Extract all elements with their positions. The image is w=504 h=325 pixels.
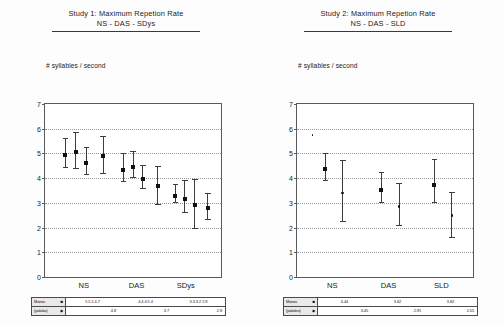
data-series	[297, 104, 473, 277]
error-bar-cap-lower	[379, 202, 385, 203]
marker-square-point	[63, 153, 67, 157]
y-tick-mark	[42, 277, 45, 278]
y-tick-label: 4	[289, 175, 293, 182]
error-bar-cap-upper	[340, 160, 346, 161]
error-bar-cap-upper	[396, 183, 402, 184]
y-tick-label: 5	[37, 150, 41, 157]
marker-square-point	[84, 161, 88, 165]
title-underline	[52, 31, 200, 32]
legend-row-name: (palaba)◆	[32, 307, 66, 315]
chart-title-line2: NS - DAS - SLD	[252, 19, 504, 29]
chart-title-line1: Study 1: Maximum Repetion Rate	[0, 9, 252, 19]
chart-title-line2: NS - DAS - SDys	[0, 19, 252, 29]
y-tick-label: 3	[289, 199, 293, 206]
legend-row-name: Monos■	[32, 298, 66, 306]
legend-cells: 5 5.1 4.74.4 4.5 43.3 3.2 2.9	[66, 298, 225, 306]
error-bar-cap-upper	[379, 172, 385, 173]
y-tick-label: 1	[37, 249, 41, 256]
figure-page: Study 1: Maximum Repetion Rate NS - DAS …	[0, 0, 504, 325]
error-bar-cap-lower	[130, 177, 136, 178]
chart-title-study2: Study 2: Maximum Repetion Rate NS - DAS …	[252, 9, 504, 32]
error-bar-cap-lower	[121, 181, 127, 182]
marker-square-point	[206, 206, 210, 210]
legend-row-label: (palaba)	[34, 309, 47, 313]
legend-cell-value: 4.4 4.5 4	[119, 300, 172, 304]
error-bar-cap-upper	[182, 180, 188, 181]
y-tick-label: 3	[37, 199, 41, 206]
legend-table-study2: Monos■4.443.623.82(palabra)◆3.452.912.55	[283, 297, 478, 316]
error-bar-cap-lower	[84, 174, 90, 175]
legend-cell-value: 2.8	[172, 309, 225, 313]
error-bar-cap-lower	[432, 202, 438, 203]
data-series	[45, 104, 221, 277]
error-bar-cap-lower	[192, 228, 198, 229]
marker-square-point	[193, 203, 197, 207]
legend-cell-value: 2.91	[371, 309, 424, 313]
legend-table-study1: Monos■5 5.1 4.74.4 4.5 43.3 3.2 2.9(pala…	[31, 297, 226, 316]
legend-row-label: (palabra)	[286, 309, 301, 313]
error-bar-cap-lower	[449, 237, 455, 238]
marker-square-point	[74, 150, 78, 154]
x-tick-label-das: DAS	[381, 282, 397, 290]
error-bar-line	[175, 184, 176, 203]
legend-row-label: Monos	[286, 300, 297, 304]
legend-cell-value: 3.62	[371, 300, 424, 304]
error-bar-cap-upper	[432, 159, 438, 160]
y-tick-label: 5	[289, 150, 293, 157]
legend-row: (palabra)◆3.452.912.55	[284, 306, 477, 315]
square-symbol-icon: ■	[60, 300, 63, 304]
y-tick-label: 7	[289, 101, 293, 108]
error-bar-cap-upper	[73, 132, 79, 133]
error-bar-cap-lower	[323, 180, 329, 181]
diamond-symbol-icon: ◆	[312, 309, 315, 313]
error-bar-line	[399, 183, 400, 225]
plot-area-study2: 01234567NSDASSLD	[296, 103, 474, 278]
legend-cell-value: 3.82	[424, 300, 477, 304]
marker-square-point	[101, 154, 105, 158]
error-bar-cap-lower	[205, 219, 211, 220]
marker-square-point	[121, 168, 125, 172]
error-bar-cap-upper	[205, 193, 211, 194]
marker-diamond-point	[341, 192, 344, 195]
legend-cell-value: 4.44	[318, 300, 371, 304]
marker-square-point	[432, 183, 436, 187]
legend-cell-value: 5 5.1 4.7	[66, 300, 119, 304]
legend-row: Monos■4.443.623.82	[284, 298, 477, 306]
x-tick-label-ns: NS	[78, 282, 89, 290]
error-bar-cap-upper	[63, 138, 69, 139]
y-tick-label: 4	[37, 175, 41, 182]
legend-cell-value: 4.8	[66, 309, 119, 313]
marker-square-point	[183, 197, 187, 201]
x-tick-label-sld: SLD	[434, 282, 449, 290]
error-bar-cap-lower	[155, 204, 161, 205]
diamond-symbol-icon: ◆	[60, 309, 63, 313]
error-bar-cap-lower	[182, 212, 188, 213]
error-bar-cap-lower	[396, 225, 402, 226]
y-tick-label: 2	[37, 224, 41, 231]
y-tick-label: 7	[37, 101, 41, 108]
legend-row: (palaba)◆4.83.72.8	[32, 306, 225, 315]
chart-title-line1: Study 2: Maximum Repetion Rate	[252, 9, 504, 19]
y-tick-label: 0	[289, 274, 293, 281]
marker-square-point	[379, 188, 383, 192]
marker-square-point	[141, 177, 145, 181]
legend-row: Monos■5 5.1 4.74.4 4.5 43.3 3.2 2.9	[32, 298, 225, 306]
legend-cell-value: 3.3 3.2 2.9	[172, 300, 225, 304]
error-bar-cap-upper	[130, 151, 136, 152]
legend-cell-value: 2.55	[424, 309, 477, 313]
error-bar-cap-lower	[73, 168, 79, 169]
marker-square-point	[131, 165, 135, 169]
error-bar-cap-upper	[173, 184, 179, 185]
legend-cells: 4.83.72.8	[66, 307, 225, 315]
marker-square-point	[173, 194, 177, 198]
stray-dot-icon	[312, 134, 314, 136]
x-tick-label-sdys: SDys	[177, 282, 195, 290]
y-tick-label: 6	[289, 125, 293, 132]
y-tick-label: 0	[37, 274, 41, 281]
x-tick-label-das: DAS	[129, 282, 145, 290]
title-underline	[304, 31, 452, 32]
marker-square-point	[323, 167, 327, 171]
error-bar-cap-lower	[340, 221, 346, 222]
legend-row-name: (palabra)◆	[284, 307, 318, 315]
y-axis-label-study2: # syllables / second	[298, 62, 358, 69]
